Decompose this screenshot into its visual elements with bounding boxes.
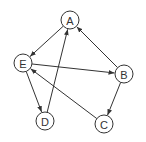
edges (26, 26, 120, 119)
edge-a-to-e (30, 26, 63, 57)
node-e: E (14, 54, 32, 72)
node-label: D (41, 116, 49, 128)
node-label: C (100, 119, 108, 131)
directed-graph: ABCDE (0, 0, 146, 142)
node-label: A (66, 15, 74, 27)
edge-e-to-b (32, 64, 115, 73)
node-a: A (61, 11, 79, 29)
edge-c-to-e (31, 69, 97, 119)
node-label: E (19, 58, 26, 70)
edge-d-to-a (47, 29, 68, 112)
edge-b-to-a (77, 27, 118, 68)
nodes: ABCDE (14, 11, 133, 133)
node-c: C (95, 115, 113, 133)
node-b: B (115, 65, 133, 83)
node-d: D (36, 112, 54, 130)
edge-e-to-d (26, 71, 41, 112)
node-label: B (120, 69, 127, 81)
edge-b-to-c (108, 82, 121, 115)
